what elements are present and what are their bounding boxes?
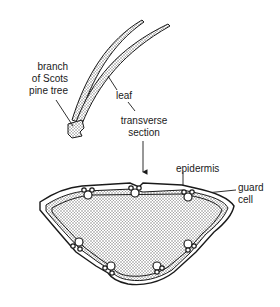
label-ts-line2: section bbox=[112, 127, 176, 139]
label-guard-line2: cell bbox=[238, 194, 264, 206]
label-leaf: leaf bbox=[116, 90, 132, 102]
label-ts-line1: transverse bbox=[112, 115, 176, 127]
label-transverse-section: transverse section bbox=[112, 115, 176, 139]
label-branch: branch of Scots pine tree bbox=[8, 61, 68, 97]
label-branch-line2: of Scots bbox=[8, 73, 68, 85]
guard-cell bbox=[107, 262, 115, 270]
branch-leader bbox=[56, 100, 73, 126]
section-leader bbox=[128, 102, 135, 111]
label-branch-line1: branch bbox=[8, 61, 68, 73]
leaf-leader bbox=[108, 76, 117, 90]
label-guard-line1: guard bbox=[238, 182, 264, 194]
label-guard-cell: guard cell bbox=[238, 182, 264, 206]
label-branch-line3: pine tree bbox=[8, 85, 68, 97]
transverse-section bbox=[40, 183, 234, 285]
label-epidermis: epidermis bbox=[176, 163, 219, 175]
guard-cell bbox=[75, 238, 83, 246]
diagram-drawing bbox=[0, 0, 280, 307]
diagram-canvas: branch of Scots pine tree leaf transvers… bbox=[0, 0, 280, 307]
guard-cell bbox=[184, 240, 192, 248]
